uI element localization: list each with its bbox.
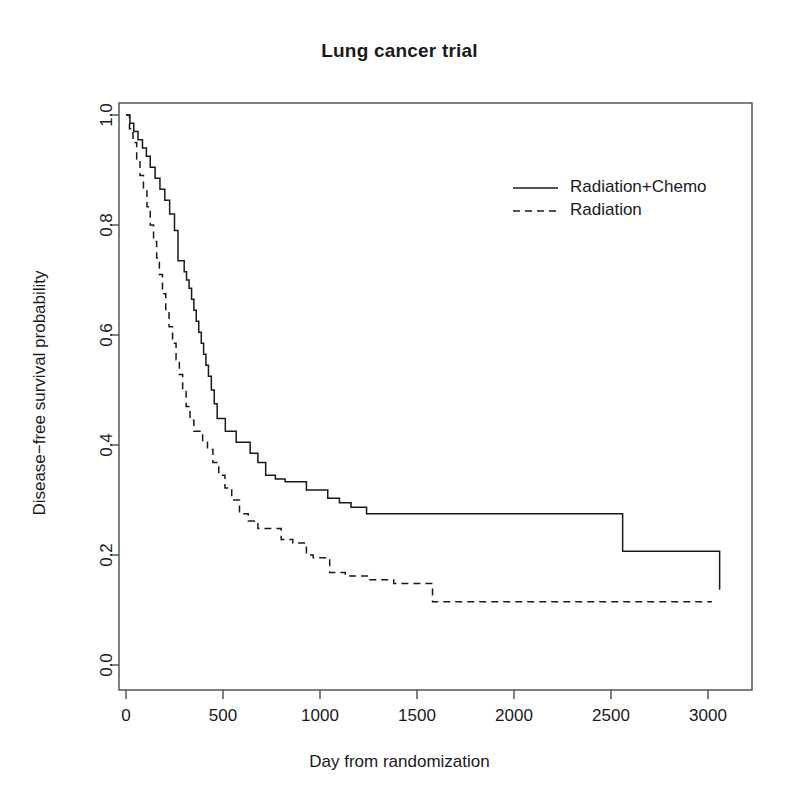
x-tick-label: 1500 [398,706,436,726]
y-tick-label: 0.6 [97,323,117,347]
y-tick-label-wrap: 1.0 [47,105,107,125]
survival-plot [0,0,799,812]
y-tick-label-wrap: 0.8 [47,215,107,235]
y-tick-label: 0.8 [97,213,117,237]
y-tick-label-wrap: 0.6 [47,325,107,345]
y-tick-label: 0.2 [97,543,117,567]
x-tick-label: 500 [209,706,237,726]
y-tick-label-wrap: 0.0 [47,655,107,675]
x-tick-label: 3000 [689,706,727,726]
legend-label-1: Radiation [570,200,642,220]
y-tick-label: 1.0 [97,103,117,127]
x-tick-label: 0 [121,706,130,726]
legend-label-0: Radiation+Chemo [570,177,707,197]
y-tick-label-wrap: 0.2 [47,545,107,565]
y-tick-label-wrap: 0.4 [47,435,107,455]
x-tick-label: 2500 [592,706,630,726]
x-tick-label: 1000 [301,706,339,726]
y-tick-label: 0.4 [97,433,117,457]
y-tick-label: 0.0 [97,653,117,677]
figure-canvas: Lung cancer trial Disease−free survival … [0,0,799,812]
x-tick-label: 2000 [495,706,533,726]
